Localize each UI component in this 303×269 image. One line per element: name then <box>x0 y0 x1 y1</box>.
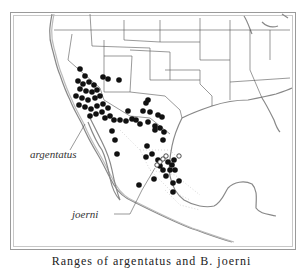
leader-lines <box>70 124 155 214</box>
argentatus-localities <box>73 66 182 195</box>
label-argentatus: argentatus <box>30 148 77 160</box>
mexico-state-borders <box>120 130 200 210</box>
map-caption: Ranges of argentatus and B. joerni <box>0 254 303 269</box>
label-joerni: joerni <box>72 208 98 220</box>
